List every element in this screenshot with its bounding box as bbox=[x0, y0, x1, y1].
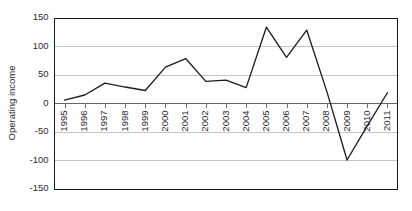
x-axis-tick-label: 1995 bbox=[58, 111, 69, 132]
y-axis-tick-label: -100 bbox=[29, 154, 48, 165]
x-axis-tick-label: 1996 bbox=[78, 111, 89, 132]
x-axis-tick-label: 1998 bbox=[119, 111, 130, 132]
x-axis-tickmarks bbox=[66, 104, 388, 108]
x-axis-tick-label: 2007 bbox=[300, 111, 311, 132]
x-axis-tick-label: 2008 bbox=[320, 111, 331, 132]
x-axis-tick-label: 2011 bbox=[381, 111, 392, 131]
x-axis-tick-label: 2001 bbox=[179, 111, 190, 132]
operating-income-line-chart: 150100500-50-100-150 1995199619971998199… bbox=[0, 0, 412, 211]
x-axis-tick-label: 2004 bbox=[240, 110, 251, 131]
x-axis-tick-labels: 1995199619971998199920002001200220032004… bbox=[58, 110, 392, 131]
y-axis-title-label: Operating income bbox=[6, 66, 17, 141]
x-axis-tick-label: 2006 bbox=[280, 111, 291, 132]
chart-container: 150100500-50-100-150 1995199619971998199… bbox=[0, 0, 412, 211]
data-series-group bbox=[65, 27, 388, 160]
x-axis-tick-label: 1997 bbox=[98, 111, 109, 132]
y-axis-tick-label: 100 bbox=[33, 40, 49, 51]
y-axis-tick-label: 150 bbox=[33, 11, 49, 22]
x-axis-tick-label: 1999 bbox=[139, 111, 150, 132]
x-axis-tick-label: 2005 bbox=[260, 111, 271, 132]
x-axis-tick-label: 2009 bbox=[341, 111, 352, 132]
plot-frame bbox=[55, 19, 398, 190]
y-axis-tick-labels: 150100500-50-100-150 bbox=[29, 11, 48, 193]
gridlines-group bbox=[55, 19, 398, 190]
x-axis-tick-label: 2003 bbox=[220, 111, 231, 132]
x-axis-tick-label: 2000 bbox=[159, 111, 170, 132]
y-axis-tick-label: -50 bbox=[35, 125, 49, 136]
x-axis-tick-label: 2002 bbox=[199, 111, 210, 132]
series-line-operating-income bbox=[65, 27, 388, 160]
y-axis-tick-label: 50 bbox=[38, 68, 49, 79]
y-axis-title: Operating income bbox=[6, 66, 17, 141]
y-axis-tick-label: -150 bbox=[29, 182, 48, 193]
y-axis-tick-label: 0 bbox=[43, 97, 48, 108]
